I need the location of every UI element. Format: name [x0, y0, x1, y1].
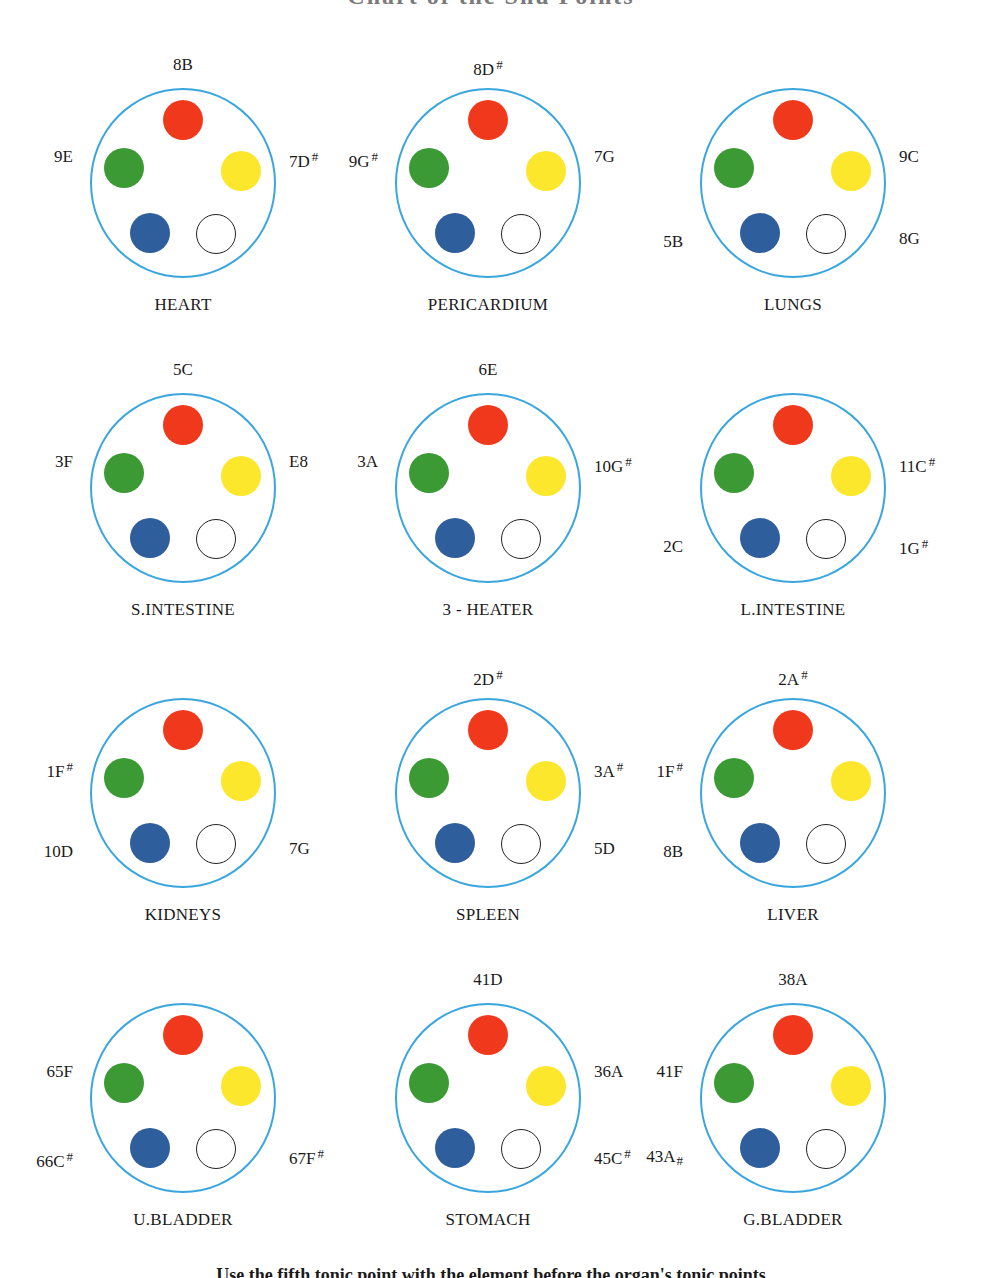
white-metal-dot [196, 824, 236, 864]
point-code: 5D [594, 839, 615, 858]
point-label-bottom-right: 1G# [899, 534, 928, 559]
hash-mark-icon: # [67, 759, 74, 774]
white-metal-dot [806, 519, 846, 559]
blue-water-dot [435, 823, 475, 863]
point-code: 7G [594, 147, 615, 166]
point-label-right: 7G [594, 147, 615, 167]
point-code: 9E [54, 147, 73, 166]
point-code: 66C [36, 1152, 64, 1171]
point-code: 2A [778, 670, 799, 689]
blue-water-dot [435, 518, 475, 558]
point-label-left: 9G# [349, 147, 378, 172]
red-fire-dot [773, 405, 813, 445]
hash-mark-icon: # [617, 759, 624, 774]
point-label-top: 8D# [473, 55, 502, 80]
hash-mark-icon: # [312, 149, 319, 164]
green-wood-dot [714, 758, 754, 798]
point-code: 3F [55, 452, 73, 471]
point-label-bottom-left: 66C# [36, 1147, 73, 1172]
white-metal-dot [501, 1129, 541, 1169]
point-label-right: 11C# [899, 452, 935, 477]
organ-name: STOMACH [446, 1210, 531, 1230]
point-label-right: 7D# [289, 147, 318, 172]
yellow-earth-dot [831, 456, 871, 496]
blue-water-dot [130, 823, 170, 863]
blue-water-dot [130, 213, 170, 253]
point-label-left: 65F [47, 1062, 73, 1082]
point-label-top: 5C [173, 360, 193, 380]
green-wood-dot [714, 453, 754, 493]
yellow-earth-dot [221, 761, 261, 801]
point-label-bottom-left: 43A# [646, 1147, 683, 1171]
point-code: 67F [289, 1149, 315, 1168]
red-fire-dot [773, 100, 813, 140]
yellow-earth-dot [526, 761, 566, 801]
point-code: 43A [646, 1147, 675, 1166]
point-label-top: 38A [778, 970, 807, 990]
point-label-bottom-right: 7G [289, 839, 310, 859]
point-label-top: 2A# [778, 665, 807, 690]
hash-mark-icon: # [67, 1149, 74, 1164]
blue-water-dot [130, 518, 170, 558]
point-code: 9C [899, 147, 919, 166]
red-fire-dot [468, 1015, 508, 1055]
yellow-earth-dot [831, 761, 871, 801]
white-metal-dot [501, 214, 541, 254]
organ-name: PERICARDIUM [428, 295, 548, 315]
red-fire-dot [163, 405, 203, 445]
point-code: 7G [289, 839, 310, 858]
point-label-right: 36A [594, 1062, 623, 1082]
point-code: 1F [657, 762, 675, 781]
point-label-top: 2D# [473, 665, 502, 690]
organ-name: KIDNEYS [145, 905, 222, 925]
point-code: 5B [663, 232, 683, 251]
yellow-earth-dot [221, 456, 261, 496]
green-wood-dot [409, 453, 449, 493]
point-label-bottom-right: 5D [594, 839, 615, 859]
blue-water-dot [740, 1128, 780, 1168]
yellow-earth-dot [526, 151, 566, 191]
point-label-bottom-left: 10D [44, 842, 73, 862]
white-metal-dot [501, 824, 541, 864]
red-fire-dot [773, 1015, 813, 1055]
point-code: 10G [594, 457, 623, 476]
point-label-left: 1F# [47, 757, 73, 782]
green-wood-dot [714, 1063, 754, 1103]
green-wood-dot [409, 758, 449, 798]
blue-water-dot [740, 213, 780, 253]
point-code: 2C [663, 537, 683, 556]
point-code: 45C [594, 1149, 622, 1168]
point-code: 1G [899, 539, 920, 558]
organ-name: LIVER [767, 905, 819, 925]
green-wood-dot [714, 148, 754, 188]
hash-mark-icon: # [624, 1146, 631, 1161]
red-fire-dot [163, 710, 203, 750]
point-code: 3A [357, 452, 378, 471]
point-code: 36A [594, 1062, 623, 1081]
footer-note: Use the fifth tonic point with the eleme… [0, 1262, 982, 1278]
red-fire-dot [773, 710, 813, 750]
point-code: 8D [473, 60, 494, 79]
organ-name: 3 - HEATER [443, 600, 534, 620]
blue-water-dot [435, 1128, 475, 1168]
blue-water-dot [435, 213, 475, 253]
point-code: 8B [663, 842, 683, 861]
point-code: 1F [47, 762, 65, 781]
point-label-left: 9E [54, 147, 73, 167]
point-code: 65F [47, 1062, 73, 1081]
green-wood-dot [409, 148, 449, 188]
point-code: 41F [657, 1062, 683, 1081]
point-label-bottom-right: 45C# [594, 1144, 631, 1169]
point-label-left: 3A [357, 452, 378, 472]
point-code: 38A [778, 970, 807, 989]
yellow-earth-dot [526, 456, 566, 496]
red-fire-dot [468, 710, 508, 750]
organ-name: S.INTESTINE [131, 600, 235, 620]
point-code: 2D [473, 670, 494, 689]
point-label-bottom-left: 5B [663, 232, 683, 252]
white-metal-dot [806, 214, 846, 254]
point-code: 5C [173, 360, 193, 379]
hash-mark-icon: # [922, 536, 929, 551]
hash-mark-icon: # [317, 1146, 324, 1161]
yellow-earth-dot [221, 151, 261, 191]
